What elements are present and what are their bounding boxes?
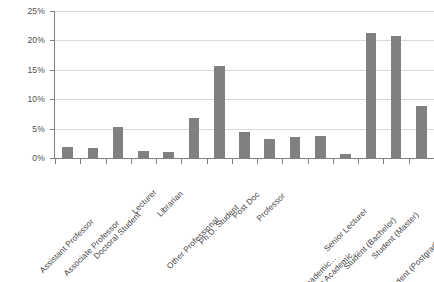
x-axis-tick-mark bbox=[156, 159, 157, 164]
y-axis-tick-labels: 0%5%10%15%20%25% bbox=[0, 0, 50, 170]
bar-slot bbox=[131, 11, 156, 158]
x-axis-tick-mark bbox=[80, 159, 81, 164]
bar-slot bbox=[409, 11, 434, 158]
y-axis-tick-mark bbox=[50, 99, 55, 100]
x-axis-tick-slot bbox=[257, 159, 282, 164]
bar bbox=[62, 147, 73, 158]
x-axis-tick-mark bbox=[232, 159, 233, 164]
bar-slot bbox=[80, 11, 105, 158]
bar bbox=[163, 152, 174, 158]
x-axis-tick-mark bbox=[257, 159, 258, 164]
x-axis-tick-slot bbox=[409, 159, 434, 164]
y-axis-tick-label: 25% bbox=[27, 6, 45, 16]
x-axis-ticks bbox=[55, 159, 434, 164]
y-axis-tick-mark bbox=[50, 11, 55, 12]
x-axis-tick-slot bbox=[333, 159, 358, 164]
bar-slot bbox=[55, 11, 80, 158]
bar-slot bbox=[308, 11, 333, 158]
bar-chart: 0%5%10%15%20%25% Assistant ProfessorAsso… bbox=[0, 0, 434, 282]
x-axis-tick-slot bbox=[55, 159, 80, 164]
x-axis-tick-slot bbox=[282, 159, 307, 164]
x-axis-tick-mark bbox=[333, 159, 334, 164]
bar-slot bbox=[207, 11, 232, 158]
x-axis-category-label: Librarian bbox=[155, 189, 185, 219]
bar bbox=[340, 154, 351, 158]
bar-slot bbox=[106, 11, 131, 158]
bar-slot bbox=[358, 11, 383, 158]
bar bbox=[88, 148, 99, 158]
bar bbox=[366, 33, 377, 158]
bar-slot bbox=[156, 11, 181, 158]
x-axis-tick-slot bbox=[156, 159, 181, 164]
bar bbox=[239, 132, 250, 158]
x-axis-category-label: Associate Professor bbox=[62, 219, 121, 278]
bar bbox=[416, 106, 427, 158]
bar bbox=[113, 127, 124, 158]
y-axis-tick-label: 10% bbox=[27, 94, 45, 104]
x-axis-tick-mark bbox=[181, 159, 182, 164]
x-axis-tick-mark bbox=[131, 159, 132, 164]
x-axis-tick-mark bbox=[358, 159, 359, 164]
bar-slot bbox=[282, 11, 307, 158]
x-axis-tick-mark bbox=[282, 159, 283, 164]
bar-slot bbox=[333, 11, 358, 158]
bar bbox=[214, 66, 225, 158]
y-axis-tick-mark bbox=[50, 158, 55, 159]
x-axis-tick-slot bbox=[106, 159, 131, 164]
y-axis-tick-mark bbox=[50, 129, 55, 130]
bar bbox=[391, 36, 402, 158]
y-axis-tick-label: 15% bbox=[27, 65, 45, 75]
bar bbox=[290, 137, 301, 158]
bar bbox=[138, 151, 149, 158]
x-axis-tick-mark bbox=[308, 159, 309, 164]
plot-region: 0%5%10%15%20%25% bbox=[0, 0, 434, 170]
bar bbox=[189, 118, 200, 158]
x-axis-tick-slot bbox=[358, 159, 383, 164]
x-axis-tick-mark bbox=[55, 159, 56, 164]
bar bbox=[264, 139, 275, 158]
x-axis-tick-mark bbox=[207, 159, 208, 164]
x-axis-tick-slot bbox=[131, 159, 156, 164]
bar-slot bbox=[232, 11, 257, 158]
bar-slot bbox=[181, 11, 206, 158]
x-axis-category-labels: Assistant ProfessorAssociate ProfessorDo… bbox=[55, 166, 434, 282]
bars-container bbox=[55, 11, 434, 158]
x-axis-tick-slot bbox=[181, 159, 206, 164]
x-axis-tick-slot bbox=[308, 159, 333, 164]
y-axis-tick-mark bbox=[50, 70, 55, 71]
x-axis-tick-mark bbox=[106, 159, 107, 164]
y-axis-tick-label: 0% bbox=[32, 153, 45, 163]
x-axis-tick-slot bbox=[383, 159, 408, 164]
y-axis-tick-mark bbox=[50, 40, 55, 41]
x-axis-tick-mark bbox=[383, 159, 384, 164]
y-axis-tick-label: 20% bbox=[27, 35, 45, 45]
x-axis-tick-slot bbox=[207, 159, 232, 164]
x-axis-tick-mark bbox=[409, 159, 410, 164]
x-axis-tick-slot bbox=[80, 159, 105, 164]
bar-slot bbox=[383, 11, 408, 158]
y-axis-tick-label: 5% bbox=[32, 124, 45, 134]
x-axis-tick-slot bbox=[232, 159, 257, 164]
bar bbox=[315, 136, 326, 158]
bar-slot bbox=[257, 11, 282, 158]
